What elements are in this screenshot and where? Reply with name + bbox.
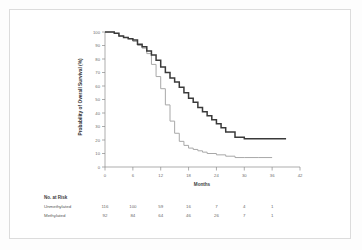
risk-count: 92 — [103, 213, 108, 218]
y-tick-label: 60 — [95, 84, 100, 89]
risk-count: 7 — [243, 213, 246, 218]
risk-count: 16 — [186, 204, 191, 209]
risk-count: 116 — [102, 204, 110, 209]
x-tick-label: 6 — [132, 173, 135, 178]
y-tick-label: 40 — [95, 111, 100, 116]
risk-row-methylated: 92 84 64 46 26 7 1 — [103, 213, 274, 218]
risk-count: 1 — [271, 213, 274, 218]
y-tick-label: 10 — [95, 151, 100, 156]
survival-curve-methylated — [105, 32, 286, 139]
risk-count: 26 — [214, 213, 219, 218]
risk-row-unmethylated: 116 100 59 16 7 4 1 — [102, 204, 274, 209]
y-tick-label: 80 — [95, 57, 100, 62]
x-axis-title: Months — [194, 182, 211, 187]
survival-chart: Probability of Overall Survival (%) 0 10… — [0, 0, 362, 250]
y-tick-label: 90 — [95, 43, 100, 48]
risk-count: 7 — [215, 204, 218, 209]
x-tick-label: 30 — [242, 173, 247, 178]
risk-count: 1 — [271, 204, 274, 209]
y-tick-label: 0 — [98, 165, 101, 170]
risk-count: 100 — [129, 204, 137, 209]
risk-count: 84 — [130, 213, 135, 218]
x-tick-label: 42 — [298, 173, 303, 178]
risk-row-label-methylated: Methylated — [44, 213, 66, 218]
x-tick-label: 12 — [158, 173, 163, 178]
y-axis-ticks: 0 10 20 30 40 50 60 70 80 90 100 — [93, 30, 105, 170]
risk-row-label-unmethylated: Unmethylated — [44, 204, 72, 209]
risk-count: 59 — [158, 204, 163, 209]
risk-count: 4 — [243, 204, 246, 209]
y-tick-label: 20 — [95, 138, 100, 143]
x-tick-label: 0 — [104, 173, 107, 178]
y-tick-label: 50 — [95, 97, 100, 102]
x-tick-label: 24 — [214, 173, 219, 178]
risk-count: 46 — [186, 213, 191, 218]
x-tick-label: 36 — [270, 173, 275, 178]
risk-count: 64 — [158, 213, 163, 218]
figure-container: Probability of Overall Survival (%) 0 10… — [0, 0, 362, 250]
x-tick-label: 18 — [186, 173, 191, 178]
risk-table: No. at Risk Unmethylated 116 100 59 16 7… — [44, 195, 274, 218]
y-tick-label: 30 — [95, 124, 100, 129]
x-axis-ticks: 0 6 12 18 24 30 36 42 — [104, 167, 303, 178]
y-axis-title: Probability of Overall Survival (%) — [78, 58, 83, 135]
y-tick-label: 100 — [93, 30, 101, 35]
y-tick-label: 70 — [95, 70, 100, 75]
risk-table-header: No. at Risk — [44, 195, 68, 200]
